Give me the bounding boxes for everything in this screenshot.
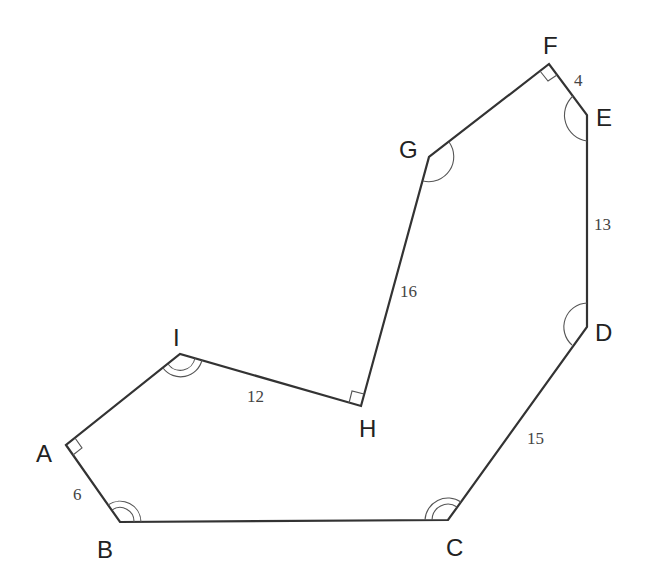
side-length-CD: 15 [527,429,544,448]
angle-arc-D [564,303,587,345]
vertex-label-E: E [596,104,612,131]
polygon-outline [66,64,587,522]
vertex-label-A: A [36,440,52,467]
side-length-EF: 4 [574,71,583,90]
side-length-GH: 16 [400,282,417,301]
vertex-label-F: F [543,32,558,59]
vertex-label-D: D [595,319,612,346]
diagram-canvas: A B C D E F G H I 6 15 13 4 16 12 [0,0,652,582]
side-length-AB: 6 [73,485,82,504]
angle-arc-E [564,96,587,141]
vertex-label-H: H [359,415,376,442]
nonagon-figure: A B C D E F G H I 6 15 13 4 16 12 [0,0,652,582]
vertex-label-G: G [399,136,418,163]
side-length-HI: 12 [247,387,264,406]
right-angle-marker-A [73,438,82,455]
vertex-label-I: I [173,324,180,351]
angle-arc-I [163,358,202,377]
vertex-label-B: B [97,536,113,563]
side-length-DE: 13 [594,215,611,234]
vertex-label-C: C [446,534,463,561]
